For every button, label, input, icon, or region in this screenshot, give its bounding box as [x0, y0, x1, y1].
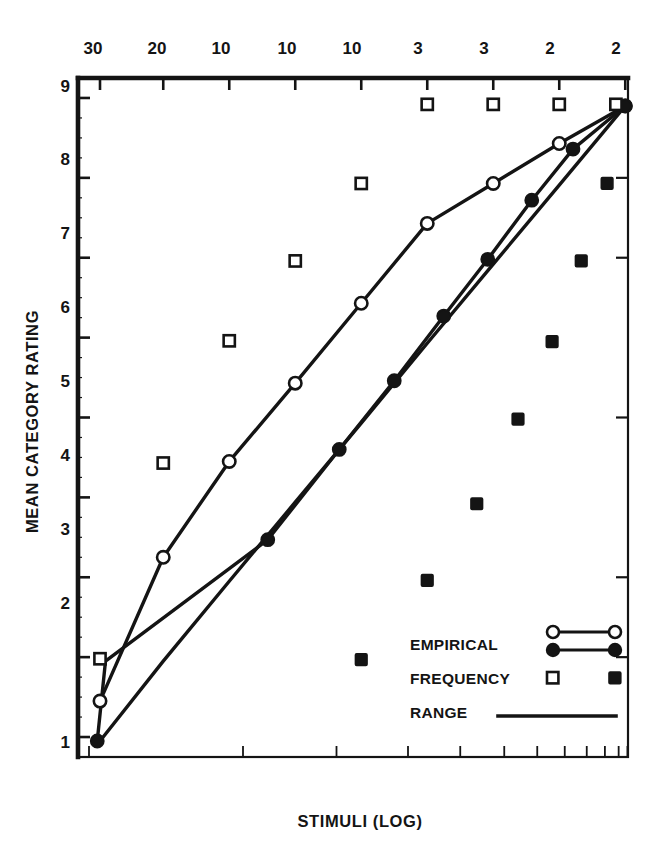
- marker-filled-square: [355, 654, 367, 666]
- legend-symbols: [498, 626, 621, 716]
- legend-open-circle-left: [547, 626, 559, 638]
- marker-open-circle: [223, 455, 235, 467]
- marker-filled-circle: [91, 735, 104, 748]
- series-line-1: [100, 106, 625, 741]
- data-series-lines: [97, 106, 625, 741]
- marker-filled-square: [601, 178, 613, 190]
- legend-open-square: [547, 672, 558, 683]
- marker-open-square: [422, 99, 433, 110]
- marker-open-circle: [553, 137, 565, 149]
- marker-filled-circle: [333, 443, 346, 456]
- marker-filled-square: [575, 255, 587, 267]
- marker-open-square: [356, 178, 367, 189]
- marker-filled-square: [421, 575, 433, 587]
- marker-filled-circle: [481, 253, 494, 266]
- marker-filled-square: [512, 413, 524, 425]
- marker-open-square: [488, 99, 499, 110]
- marker-open-square: [158, 457, 169, 468]
- marker-filled-square: [546, 336, 558, 348]
- marker-filled-circle: [567, 143, 580, 156]
- marker-open-circle: [289, 377, 301, 389]
- marker-open-circle: [157, 551, 169, 563]
- marker-open-square: [290, 255, 301, 266]
- marker-open-circle: [355, 297, 367, 309]
- marker-open-circle: [94, 695, 106, 707]
- marker-filled-circle: [388, 374, 401, 387]
- marker-open-circle: [487, 177, 499, 189]
- marker-open-circle: [421, 217, 433, 229]
- marker-open-square: [610, 99, 621, 110]
- marker-filled-circle: [261, 533, 274, 546]
- marker-open-square: [554, 99, 565, 110]
- axis-ticks: [78, 78, 628, 757]
- marker-open-square: [224, 335, 235, 346]
- legend-filled-circle-left: [547, 644, 559, 656]
- plot-area: [0, 0, 672, 863]
- axes-frame: [78, 78, 628, 757]
- legend-filled-square: [609, 672, 621, 684]
- chart-figure: MEAN CATEGORY RATING STIMULI (LOG) 9 8 7…: [0, 0, 672, 863]
- marker-filled-square: [471, 498, 483, 510]
- marker-open-square: [94, 653, 105, 664]
- legend-open-circle-right: [609, 626, 621, 638]
- marker-filled-circle: [437, 310, 450, 323]
- marker-filled-circle: [525, 194, 538, 207]
- legend-filled-circle-right: [609, 644, 621, 656]
- series-line-0: [100, 106, 625, 701]
- plot-border: [78, 78, 628, 757]
